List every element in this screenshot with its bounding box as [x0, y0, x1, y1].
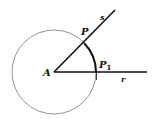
geometry-diagram: A P P1 s r: [0, 0, 157, 119]
label-p: P: [80, 26, 89, 37]
arc-p-to-p1: [84, 43, 96, 72]
label-p1: P1: [98, 59, 112, 72]
label-a: A: [42, 67, 51, 78]
label-p1-subscript: 1: [107, 63, 112, 72]
label-r: r: [121, 74, 126, 84]
label-s: s: [100, 12, 105, 22]
